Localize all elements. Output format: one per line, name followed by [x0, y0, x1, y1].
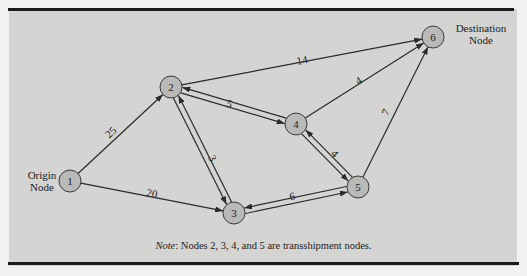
node-3: 3: [223, 202, 245, 224]
edge-4-6: [305, 43, 423, 118]
edge-3-2: [178, 96, 231, 202]
node-label: 5: [355, 181, 361, 193]
edges-layer: [78, 39, 428, 213]
edge-weight-4-6: 4: [353, 74, 364, 87]
node-label: 1: [67, 175, 73, 187]
edge-4-5: [302, 134, 349, 181]
edge-labels-layer: 252014536447: [102, 53, 392, 202]
edge-4-2: [182, 87, 286, 118]
edge-3-5: [245, 192, 347, 213]
edge-5-3: [244, 187, 346, 208]
node-5: 5: [347, 176, 369, 198]
node-label: 3: [231, 207, 237, 219]
origin-label-line1: Origin: [22, 169, 62, 181]
figure-note: Note: Nodes 2, 3, 4, and 5 are transship…: [0, 240, 527, 251]
node-label: 2: [168, 81, 174, 93]
note-text: : Nodes 2, 3, 4, and 5 are transshipment…: [175, 240, 371, 251]
note-prefix: Note: [155, 240, 175, 251]
node-4: 4: [285, 113, 307, 135]
node-6: 6: [422, 26, 444, 48]
edge-5-4: [306, 130, 353, 177]
edge-5-6: [363, 47, 428, 177]
edge-weight-2-6: 14: [295, 53, 309, 67]
nodes-layer: 123456: [59, 26, 444, 224]
destination-node-label: Destination Node: [446, 22, 516, 46]
edge-weight-4-5: 4: [329, 147, 342, 160]
node-1: 1: [59, 170, 81, 192]
destination-label-line2: Node: [446, 34, 516, 46]
edge-1-2: [78, 94, 163, 173]
edge-weight-3-5: 6: [288, 189, 296, 202]
node-2: 2: [160, 76, 182, 98]
edge-weight-5-6: 7: [379, 106, 392, 117]
origin-node-label: Origin Node: [22, 169, 62, 193]
edge-2-3: [173, 98, 226, 204]
destination-label-line1: Destination: [446, 22, 516, 34]
node-label: 4: [293, 118, 299, 130]
node-label: 6: [430, 31, 436, 43]
origin-label-line2: Node: [22, 181, 62, 193]
